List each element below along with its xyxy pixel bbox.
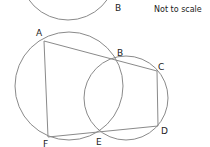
left-circle <box>15 32 123 140</box>
not-to-scale-note: Not to scale <box>154 5 202 14</box>
segment-ac <box>44 41 157 71</box>
label-c: C <box>158 62 164 72</box>
segment-cd <box>157 71 158 126</box>
top-circle-arc <box>20 0 116 20</box>
segment-fa <box>44 41 48 137</box>
right-circle <box>84 56 168 140</box>
label-b: B <box>117 48 123 58</box>
label-f: F <box>43 139 48 147</box>
label-e: E <box>96 137 102 147</box>
geometry-diagram: B Not to scale A B C D E F <box>0 0 210 147</box>
top-label-b: B <box>115 3 121 13</box>
label-a: A <box>36 28 43 38</box>
label-d: D <box>161 126 168 136</box>
